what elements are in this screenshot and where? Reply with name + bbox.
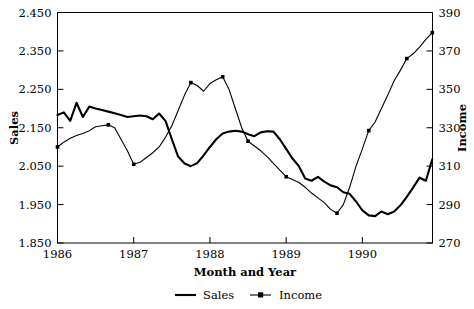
y-tick-label-right: 310 (439, 159, 461, 173)
chart-container: 1.8501.9502.0502.1502.2502.3502.450 2702… (0, 0, 474, 309)
chart-svg: 1.8501.9502.0502.1502.2502.3502.450 2702… (0, 0, 474, 309)
y-tick-label-left: 2.150 (19, 121, 52, 135)
series-markers-income (56, 31, 434, 215)
y-tick-label-left: 2.250 (19, 82, 52, 96)
y-tick-label-left: 1.950 (19, 198, 52, 212)
y-axis-right-title: Income (455, 104, 469, 152)
x-axis-labels: 19861987198819891990 (43, 247, 377, 261)
legend-marker-income (258, 292, 263, 297)
income-marker (189, 81, 193, 85)
y-tick-label-right: 350 (439, 82, 461, 96)
x-tick-label: 1988 (195, 247, 224, 261)
income-marker (56, 145, 60, 149)
y-axis-left-title: Sales (7, 111, 21, 145)
legend-label-sales: Sales (203, 288, 234, 302)
income-marker (284, 175, 288, 179)
y-tick-label-right: 370 (439, 44, 461, 58)
income-marker (405, 57, 409, 61)
chart-legend: Sales Income (175, 288, 322, 302)
x-axis-title: Month and Year (194, 265, 297, 279)
y-tick-label-right: 270 (439, 236, 461, 250)
x-tick-label: 1990 (348, 247, 377, 261)
income-marker (430, 31, 434, 35)
x-tick-label: 1989 (272, 247, 301, 261)
y-tick-label-left: 2.350 (19, 44, 52, 58)
income-marker (246, 139, 250, 143)
y-axis-right-ticks (427, 13, 433, 244)
x-axis-ticks (134, 237, 363, 243)
income-marker (221, 75, 225, 79)
y-tick-label-left: 2.450 (19, 6, 52, 20)
income-marker (107, 123, 111, 127)
series-line-income (58, 33, 433, 214)
income-marker (367, 129, 371, 133)
x-tick-label: 1987 (119, 247, 148, 261)
income-marker (132, 162, 136, 166)
y-tick-label-right: 390 (439, 6, 461, 20)
y-axis-left-ticks (58, 13, 64, 244)
x-tick-label: 1986 (43, 247, 72, 261)
y-tick-label-left: 2.050 (19, 159, 52, 173)
y-tick-label-right: 290 (439, 198, 461, 212)
income-marker (335, 211, 339, 215)
legend-label-income: Income (279, 288, 322, 302)
y-axis-left-labels: 1.8501.9502.0502.1502.2502.3502.450 (19, 6, 52, 251)
